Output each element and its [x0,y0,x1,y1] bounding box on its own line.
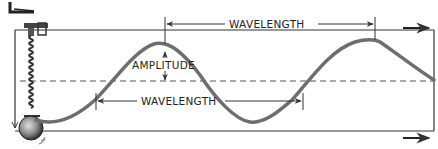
amplitude-label: AMPLITUDE [132,59,195,71]
wavelength-label-bottom: WAVELENGTH [141,95,217,107]
wavelength-label-top: WAVELENGTH [229,18,305,30]
spring-icon [24,36,40,116]
corner-mark-icon [10,2,34,12]
wavelength-arrow-bottom: WAVELENGTH [96,93,303,110]
wave-diagram: WAVELENGTH AMPLITUDE WAVELENGTH [0,0,438,149]
